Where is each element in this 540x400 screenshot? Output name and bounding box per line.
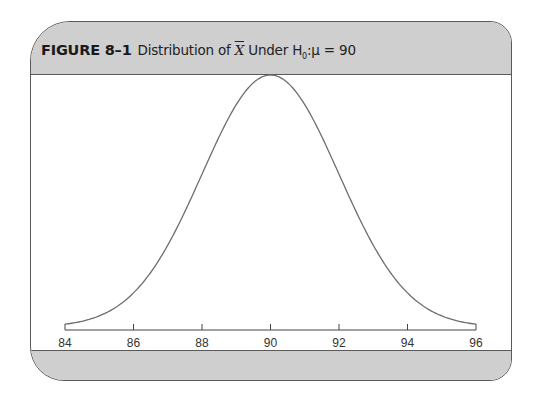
chart-plot-area: 84868890929496: [0, 0, 540, 400]
x-tick-label: 86: [127, 336, 141, 350]
x-tick-label: 96: [469, 336, 483, 350]
normal-curve: [65, 75, 476, 324]
x-tick-label: 90: [264, 336, 278, 350]
x-tick-label: 94: [401, 336, 415, 350]
x-tick-label: 88: [195, 336, 209, 350]
x-tick-label: 92: [332, 336, 346, 350]
x-axis-ticks: 84868890929496: [58, 324, 483, 350]
x-tick-label: 84: [58, 336, 72, 350]
